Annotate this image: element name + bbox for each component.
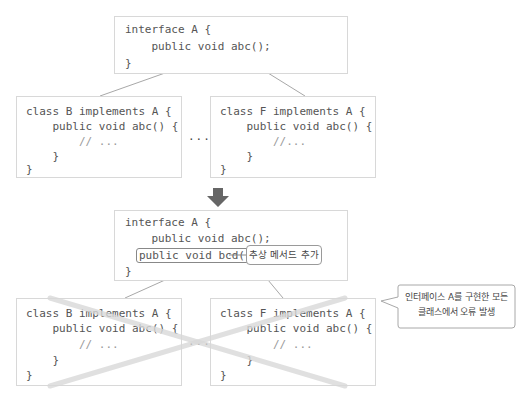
code-line: public void abc(); [125, 38, 271, 55]
code-comment: // ... [26, 336, 119, 353]
down-arrow-icon [206, 188, 230, 208]
class-b-box: class B implements A { public void abc()… [16, 96, 182, 178]
interface-a-box: interface A { public void abc(); } [114, 16, 348, 74]
code-line: } [26, 367, 33, 384]
connector-line [100, 73, 165, 96]
code-line: } [125, 55, 132, 72]
code-line: } [26, 161, 33, 178]
connector-line [268, 73, 305, 96]
code-line: public void abc() { [220, 320, 372, 337]
code-line: interface A { [125, 21, 211, 38]
ellipsis: ... [188, 130, 211, 143]
code-line: } [220, 161, 227, 178]
code-line: public void abc() { [26, 320, 178, 337]
callout-error-text: 인터페이스 A를 구현한 모든 클래스에서 오류 발생 [400, 290, 513, 320]
code-comment: // ... [220, 336, 313, 353]
code-line: } [220, 367, 227, 384]
code-line: interface A { [125, 214, 211, 231]
callout-error-line1: 인터페이스 A를 구현한 모든 [400, 290, 513, 305]
callout-add-abstract-method: 추상 메서드 추가 [246, 245, 322, 265]
connector-line [125, 280, 165, 298]
ellipsis: ... [188, 335, 211, 348]
code-line: } [125, 263, 132, 280]
class-f-box-error: class F implements A { public void abc()… [210, 298, 376, 386]
callout-error-line2: 클래스에서 오류 발생 [400, 305, 513, 320]
connector-line [268, 280, 283, 298]
class-b-box-error: class B implements A { public void abc()… [16, 298, 182, 386]
class-f-box: class F implements A { public void abc()… [210, 96, 376, 178]
